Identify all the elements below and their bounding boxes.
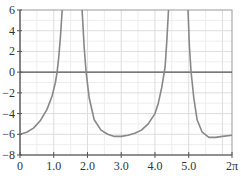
x-tick-label: 2π	[226, 159, 238, 173]
curve-branch-2	[82, 10, 168, 136]
x-tick-label: 0	[17, 159, 23, 173]
line-chart: 01.02.03.04.05.02π 6420−2−4−6−8	[0, 0, 241, 176]
y-tick-label: 4	[9, 24, 15, 38]
y-axis-ticks: 6420−2−4−6−8	[2, 3, 22, 162]
x-tick-label: 5.0	[181, 159, 196, 173]
y-tick-label: 6	[9, 3, 15, 17]
chart-container: 01.02.03.04.05.02π 6420−2−4−6−8	[0, 0, 241, 176]
x-tick-label: 1.0	[46, 159, 61, 173]
x-tick-label: 3.0	[114, 159, 129, 173]
y-tick-label: −2	[2, 86, 15, 100]
grid-minor	[20, 10, 232, 155]
y-tick-label: −6	[2, 127, 15, 141]
curve-branch-3	[188, 10, 232, 137]
y-tick-label: −8	[2, 148, 15, 162]
y-tick-label: 2	[9, 44, 15, 58]
function-curves	[20, 10, 232, 137]
y-tick-label: 0	[9, 65, 15, 79]
y-tick-label: −4	[2, 107, 15, 121]
x-tick-label: 4.0	[147, 159, 162, 173]
x-tick-label: 2.0	[80, 159, 95, 173]
